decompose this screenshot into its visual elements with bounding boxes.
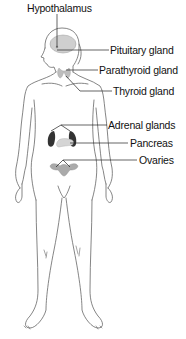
glands <box>48 35 78 176</box>
label-pituitary: Pituitary gland <box>110 44 174 56</box>
label-parathyroid: Parathyroid gland <box>99 64 178 76</box>
right-leg <box>66 198 103 328</box>
leader-thyroid <box>66 76 112 91</box>
label-hypothalamus: Hypothalamus <box>27 2 92 14</box>
thyroid-icon <box>58 68 71 78</box>
label-adrenal: Adrenal glands <box>108 119 175 131</box>
label-thyroid: Thyroid gland <box>113 85 174 97</box>
label-pancreas: Pancreas <box>130 137 173 149</box>
kidney-left-icon <box>48 131 55 147</box>
ovaries-icon <box>50 164 78 176</box>
leader-adrenal <box>51 125 107 131</box>
label-ovaries: Ovaries <box>139 154 174 166</box>
shoulders-outline <box>16 72 56 188</box>
left-leg <box>26 198 63 328</box>
